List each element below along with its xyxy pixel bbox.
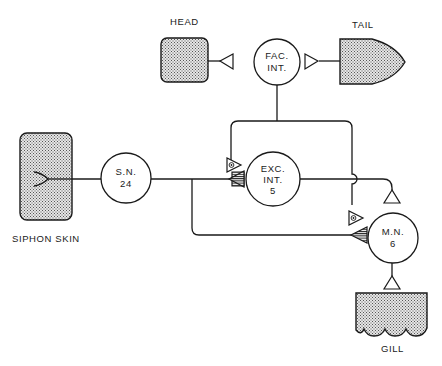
sn-line1: S.N. — [116, 166, 137, 177]
fac-int-line2: INT. — [267, 62, 286, 73]
synapse-fac-head-icon — [220, 54, 233, 69]
siphon-skin-organ: SIPHON SKIN — [12, 133, 80, 244]
exc-int-line3: 5 — [270, 185, 276, 196]
tail-label: TAIL — [352, 19, 374, 30]
gill-label: GILL — [381, 343, 404, 354]
synapse-exc-mn-icon — [384, 190, 400, 203]
synapse-sensory-mn-icon — [351, 227, 367, 243]
excitatory-interneuron-5: EXC. INT. 5 — [246, 152, 300, 206]
exc-int-line2: INT. — [263, 174, 282, 185]
gill-organ: GILL — [356, 293, 427, 354]
facilitation-dot-center — [231, 164, 233, 166]
synapse-fac-tail-icon — [305, 54, 318, 69]
sensory-neuron-24: S.N. 24 — [101, 153, 151, 203]
neural-circuit-diagram: HEAD TAIL SIPHON SKIN GILL FAC. INT. S.N… — [0, 0, 442, 366]
mn-line1: M.N. — [382, 226, 404, 237]
fac-int-line1: FAC. — [265, 50, 289, 61]
head-organ: HEAD — [161, 16, 208, 82]
motor-neuron-6: M.N. 6 — [368, 213, 418, 263]
synapse-mn-gill-icon — [384, 276, 400, 289]
facilitating-interneuron: FAC. INT. — [254, 39, 300, 85]
connection-wires — [34, 61, 392, 276]
exc-int-line1: EXC. — [261, 163, 286, 174]
tail-organ: TAIL — [340, 19, 405, 84]
head-label: HEAD — [170, 16, 199, 27]
mn-line2: 6 — [390, 238, 396, 249]
sn-line2: 24 — [120, 178, 132, 189]
siphon-skin-label: SIPHON SKIN — [12, 233, 80, 244]
facilitation-dot-mn-center — [353, 217, 355, 219]
